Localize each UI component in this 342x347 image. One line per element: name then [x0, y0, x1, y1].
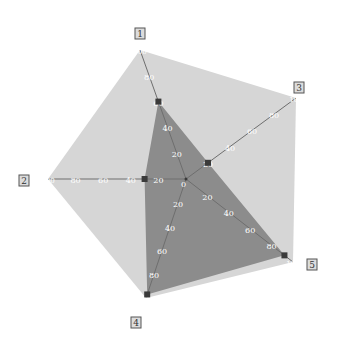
data-marker-1[interactable] — [155, 99, 161, 105]
svg-text:3: 3 — [296, 83, 302, 93]
center-tick-label: 0 — [181, 180, 186, 189]
svg-text:2: 2 — [21, 176, 27, 186]
tick-label: 100 — [133, 48, 146, 56]
tick-label: 20 — [173, 200, 183, 209]
axis-label-4: 4 — [131, 317, 141, 328]
axis-label-2: 2 — [19, 175, 29, 186]
tick-label: 20 — [153, 176, 163, 185]
tick-label: 80 — [267, 242, 277, 251]
tick-label: 80 — [149, 271, 159, 280]
svg-text:4: 4 — [133, 318, 139, 328]
axis-label-5: 5 — [307, 259, 317, 270]
tick-label: 60 — [157, 247, 167, 256]
svg-text:5: 5 — [309, 260, 315, 270]
tick-label: 80 — [144, 73, 154, 82]
tick-label: 100 — [286, 260, 299, 268]
data-marker-4[interactable] — [144, 291, 150, 297]
tick-label: 40 — [225, 144, 235, 153]
tick-label: 40 — [126, 176, 136, 185]
tick-label: 20 — [202, 193, 212, 202]
tick-label: 100 — [41, 177, 54, 185]
tick-label: 60 — [247, 127, 257, 136]
tick-label: 60 — [245, 226, 255, 235]
tick-label: 20 — [172, 150, 182, 159]
data-marker-3[interactable] — [205, 160, 211, 166]
data-marker-5[interactable] — [281, 252, 287, 258]
radar-chart: 2040608010020406080100204060801002040608… — [0, 0, 342, 347]
tick-label: 100 — [289, 96, 302, 104]
svg-text:1: 1 — [137, 29, 143, 39]
tick-label: 80 — [71, 176, 81, 185]
tick-label: 40 — [163, 124, 173, 133]
axis-label-1: 1 — [135, 28, 145, 39]
data-marker-2[interactable] — [142, 176, 148, 182]
tick-label: 80 — [269, 111, 279, 120]
tick-label: 40 — [224, 209, 234, 218]
axis-label-3: 3 — [294, 82, 304, 93]
tick-label: 60 — [98, 176, 108, 185]
tick-label: 40 — [165, 224, 175, 233]
